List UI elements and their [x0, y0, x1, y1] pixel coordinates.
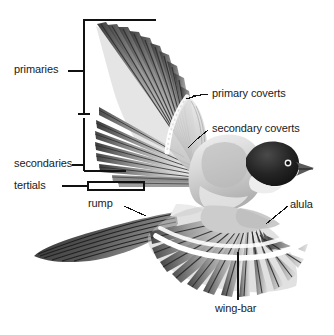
label-rump: rump	[88, 198, 113, 209]
label-alula: alula	[290, 199, 313, 210]
label-secondary-coverts: secondary coverts	[212, 123, 300, 134]
lower-wing	[148, 206, 308, 297]
label-primary-coverts: primary coverts	[212, 88, 286, 99]
label-wing-bar: wing-bar	[215, 303, 256, 314]
upper-wing	[95, 22, 207, 187]
label-primaries: primaries	[14, 64, 58, 75]
label-secondaries: secondaries	[14, 158, 72, 169]
alula-leader	[266, 206, 288, 224]
bird-head	[246, 142, 314, 194]
bird-anatomy-figure: primaries secondaries tertials rump prim…	[0, 0, 334, 335]
rump-leader	[124, 206, 146, 216]
label-tertials: tertials	[14, 180, 46, 191]
